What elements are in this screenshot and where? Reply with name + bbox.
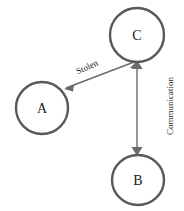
diagram-canvas: C A B Stolen Communication xyxy=(0,0,184,211)
node-b[interactable]: B xyxy=(112,155,164,205)
node-a[interactable]: A xyxy=(16,82,68,134)
node-a-label: A xyxy=(37,101,48,116)
graph-svg: C A B Stolen Communication xyxy=(0,0,184,211)
node-c-label: C xyxy=(132,28,141,43)
edge-stolen-label: Stolen xyxy=(74,57,100,76)
edge-communication[interactable] xyxy=(132,60,143,156)
edge-stolen-arrowhead-a xyxy=(64,85,74,92)
edge-communication-label: Communication xyxy=(165,77,175,135)
node-c[interactable]: C xyxy=(110,8,164,62)
node-b-label: B xyxy=(133,173,142,188)
